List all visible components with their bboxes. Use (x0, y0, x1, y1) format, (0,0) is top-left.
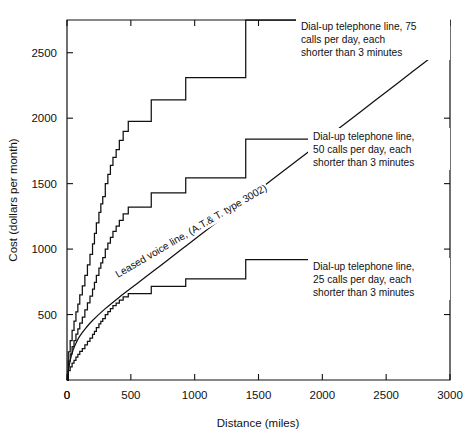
y-axis-label: Cost (dollars per month) (7, 138, 19, 262)
anno-25-line3: shorter than 3 minutes (313, 287, 414, 298)
anno-25-line2: 25 calls per day, each (313, 274, 411, 285)
x-axis-label: Distance (miles) (217, 417, 300, 429)
anno-50-line3: shorter than 3 minutes (313, 157, 414, 168)
y-origin-label: 0 (64, 389, 70, 401)
y-tick-label: 500 (38, 309, 57, 321)
anno-50-line2: 50 calls per day, each (313, 144, 411, 155)
x-tick-label: 2000 (310, 389, 336, 401)
anno-25-line1: Dial-up telephone line, (313, 261, 414, 272)
figure: 050010001500200025003000 500100015002000… (0, 0, 468, 437)
annotation-dial-up-25: Dial-up telephone line, 25 calls per day… (313, 261, 414, 298)
y-tick-label: 2000 (31, 112, 57, 124)
cost-vs-distance-chart: 050010001500200025003000 500100015002000… (0, 0, 468, 437)
anno-50-line1: Dial-up telephone line, (313, 131, 414, 142)
anno-75-line1: Dial-up telephone line, 75 (301, 21, 417, 32)
x-tick-label: 2500 (373, 389, 399, 401)
x-tick-label: 1000 (182, 389, 208, 401)
x-tick-label: 500 (121, 389, 140, 401)
y-tick-label: 2500 (31, 47, 57, 59)
chart-background (0, 0, 468, 437)
annotation-dial-up-50: Dial-up telephone line, 50 calls per day… (313, 131, 414, 168)
anno-75-line3: shorter than 3 minutes (301, 47, 402, 58)
y-tick-label: 1500 (31, 178, 57, 190)
x-tick-label: 1500 (246, 389, 272, 401)
y-tick-label: 1000 (31, 243, 57, 255)
anno-75-line2: calls per day, each (301, 34, 385, 45)
x-tick-label: 3000 (437, 389, 463, 401)
